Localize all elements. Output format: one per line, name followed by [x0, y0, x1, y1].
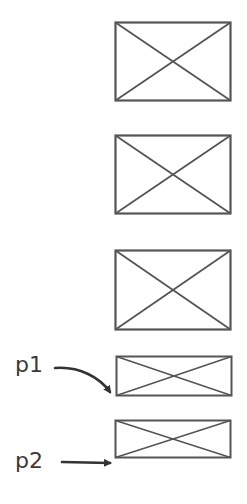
placeholder-box-5: [116, 421, 231, 458]
placeholder-box-2: [116, 136, 231, 214]
placeholder-box-3: [116, 251, 231, 330]
label-p1: p1: [15, 354, 43, 376]
diagram-canvas: p1 p2: [0, 0, 247, 504]
placeholder-box-1: [116, 23, 231, 101]
arrow-p1-icon: [55, 368, 110, 392]
diagram-svg: [0, 0, 247, 504]
label-p2: p2: [15, 450, 43, 472]
placeholder-box-4: [117, 357, 232, 396]
arrow-p2-icon: [62, 462, 110, 463]
